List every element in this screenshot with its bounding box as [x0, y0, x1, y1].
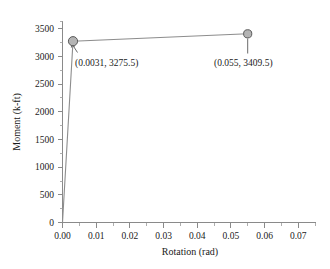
moment-rotation-chart-figure: 0 500 1000 1500 2000 2500 3000 3500 0.00…	[0, 0, 330, 269]
y-tick-label: 3000	[35, 52, 54, 62]
chart-canvas: 0 500 1000 1500 2000 2500 3000 3500 0.00…	[0, 0, 330, 269]
x-tick-label: 0.00	[54, 231, 71, 241]
data-point-marker-1[interactable]	[68, 37, 77, 46]
y-tick-label: 2000	[35, 107, 54, 117]
y-tick-label: 2500	[35, 79, 54, 89]
x-tick-label: 0.04	[189, 231, 206, 241]
x-axis-tick-labels: 0.00 0.01 0.02 0.03 0.04 0.05 0.06 0.07	[54, 231, 307, 241]
y-axis-title: Moment (k-ft)	[11, 93, 23, 151]
x-tick-label: 0.06	[256, 231, 273, 241]
x-axis-title: Rotation (rad)	[162, 246, 218, 258]
y-tick-label: 1000	[35, 162, 54, 172]
y-tick-label: 500	[40, 190, 55, 200]
axes-group	[63, 21, 317, 223]
annotation-leaders	[71, 39, 247, 54]
x-tick-label: 0.01	[88, 231, 105, 241]
x-tick-label: 0.02	[122, 231, 139, 241]
y-tick-label: 0	[49, 218, 54, 228]
y-axis-tick-labels: 0 500 1000 1500 2000 2500 3000 3500	[35, 24, 54, 228]
data-point-annotation-2: (0.055, 3409.5)	[214, 58, 273, 69]
data-point-annotation-1: (0.0031, 3275.5)	[75, 58, 138, 69]
x-tick-label: 0.05	[223, 231, 240, 241]
x-tick-label: 0.03	[155, 231, 172, 241]
x-tick-label: 0.07	[290, 231, 307, 241]
data-point-marker-2[interactable]	[244, 30, 252, 38]
data-point-annotations: (0.0031, 3275.5) (0.055, 3409.5)	[75, 58, 273, 69]
y-tick-label: 1500	[35, 135, 54, 145]
y-tick-label: 3500	[35, 24, 54, 34]
